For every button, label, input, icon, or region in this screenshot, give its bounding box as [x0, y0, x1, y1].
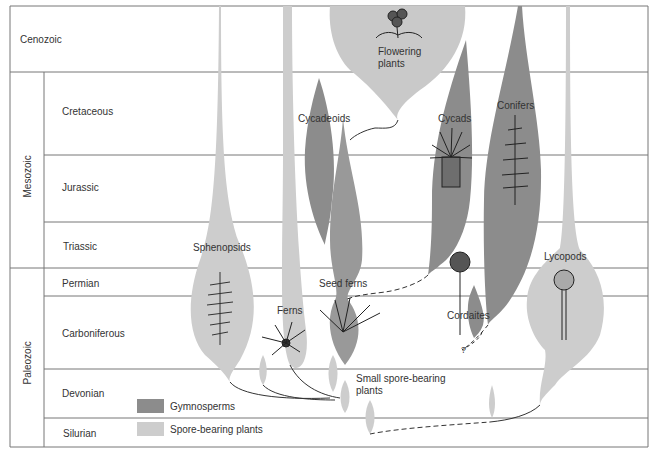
period-label-silurian: Silurian [63, 429, 96, 439]
label-cycads: Cycads [438, 114, 471, 124]
cordaites-drawing [450, 252, 470, 335]
legend-swatch-gymnosperms [137, 399, 164, 413]
era-label-cenozoic: Cenozoic [20, 35, 62, 45]
label-cordaites: Cordaites [447, 311, 490, 321]
legend-swatch-spore-bearing [137, 422, 164, 436]
conifers-shape [484, 6, 541, 325]
era-label-mesozoic: Mesozoic [22, 144, 33, 198]
sphenopsids-shape [191, 6, 254, 382]
legend-label-spore-bearing: Spore-bearing plants [170, 425, 263, 435]
cycadeoids-shape [305, 78, 334, 245]
label-sphenopsids: Sphenopsids [193, 243, 251, 253]
label-seed-ferns: Seed ferns [319, 279, 367, 289]
label-conifers: Conifers [497, 101, 534, 111]
period-label-triassic: Triassic [63, 242, 97, 252]
label-small-spore-bearing-plants: Small spore-bearing plants [356, 374, 446, 396]
label-lycopods: Lycopods [544, 252, 586, 262]
label-flowering-plants: Flowering plants [378, 47, 421, 69]
era-label-paleozoic: Paleozoic [22, 331, 33, 385]
period-label-devonian: Devonian [62, 389, 104, 399]
legend-label-gymnosperms: Gymnosperms [170, 402, 235, 412]
evolution-diagram [0, 0, 654, 455]
period-label-jurassic: Jurassic [62, 183, 99, 193]
label-cycadeoids: Cycadeoids [298, 114, 350, 124]
period-label-cretaceous: Cretaceous [62, 107, 113, 117]
label-ferns: Ferns [277, 306, 303, 316]
period-label-permian: Permian [62, 279, 99, 289]
period-label-carboniferous: Carboniferous [62, 329, 125, 339]
uncertain-marker: ? [461, 346, 466, 355]
